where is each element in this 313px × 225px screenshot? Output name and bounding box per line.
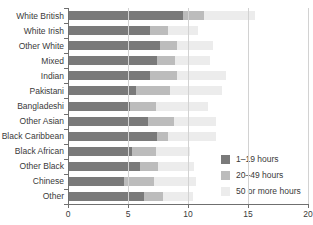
bar-segment-2 — [170, 86, 222, 95]
category-label-7: Other Asian — [20, 116, 64, 126]
x-tick-20 — [308, 204, 309, 208]
bar-segment-1 — [144, 192, 163, 201]
category-label-4: Indian — [41, 71, 64, 81]
bar-segment-0 — [68, 71, 150, 80]
bar-segment-0 — [68, 86, 136, 95]
bar-row — [68, 26, 198, 35]
y-tick-2 — [64, 38, 68, 39]
legend-swatch-icon — [221, 171, 230, 180]
y-tick-8 — [64, 129, 68, 130]
bar-segment-2 — [168, 26, 198, 35]
legend-label: 1–19 hours — [236, 154, 279, 164]
bar-segment-2 — [154, 177, 196, 186]
bar-segment-0 — [68, 11, 183, 20]
bar-segment-1 — [160, 41, 177, 50]
bar-segment-1 — [183, 11, 203, 20]
bar-segment-2 — [177, 71, 226, 80]
bar-row — [68, 86, 222, 95]
bar-segment-0 — [68, 56, 157, 65]
category-label-10: Other Black — [20, 161, 64, 171]
y-tick-7 — [64, 114, 68, 115]
bar-segment-1 — [130, 102, 155, 111]
category-label-11: Chinese — [33, 176, 64, 186]
bar-segment-1 — [150, 26, 168, 35]
y-tick-10 — [64, 159, 68, 160]
stacked-bar-chart: White BritishWhite IrishOther WhiteMixed… — [0, 0, 313, 225]
gridline-10 — [188, 8, 189, 204]
x-tick-label-10: 10 — [183, 209, 192, 219]
legend-item-2: 50 or more hours — [221, 184, 301, 198]
x-tick-label-0: 0 — [66, 209, 71, 219]
category-label-5: Pakistani — [30, 86, 65, 96]
y-tick-9 — [64, 144, 68, 145]
bar-segment-1 — [140, 162, 158, 171]
bar-row — [68, 192, 193, 201]
category-label-3: Mixed — [41, 56, 64, 66]
bar-row — [68, 162, 194, 171]
x-tick-label-15: 15 — [243, 209, 252, 219]
y-tick-1 — [64, 23, 68, 24]
bar-segment-1 — [136, 86, 170, 95]
bar-segment-0 — [68, 26, 150, 35]
bar-segment-2 — [175, 56, 210, 65]
bar-segment-0 — [68, 147, 132, 156]
x-tick-15 — [248, 204, 249, 208]
bar-row — [68, 117, 216, 126]
bar-segment-1 — [157, 56, 175, 65]
category-label-8: Black Caribbean — [2, 131, 64, 141]
y-tick-11 — [64, 174, 68, 175]
legend-label: 20–49 hours — [236, 170, 283, 180]
bar-segment-0 — [68, 162, 140, 171]
bar-segment-2 — [168, 132, 216, 141]
category-label-2: Other White — [19, 41, 64, 51]
bar-segment-2 — [156, 147, 191, 156]
category-label-1: White Irish — [24, 26, 64, 36]
bar-segment-0 — [68, 102, 130, 111]
y-axis-line — [68, 8, 69, 204]
y-tick-3 — [64, 53, 68, 54]
x-tick-label-20: 20 — [303, 209, 312, 219]
y-tick-4 — [64, 68, 68, 69]
y-tick-6 — [64, 98, 68, 99]
bar-segment-1 — [148, 117, 173, 126]
bar-row — [68, 132, 216, 141]
bar-row — [68, 11, 255, 20]
bar-segment-0 — [68, 192, 144, 201]
bar-segment-1 — [150, 71, 178, 80]
bar-row — [68, 41, 213, 50]
bar-segment-2 — [156, 102, 209, 111]
bar-segment-2 — [174, 117, 216, 126]
category-label-6: Bangladeshi — [17, 101, 64, 111]
x-tick-10 — [188, 204, 189, 208]
bar-segment-0 — [68, 132, 157, 141]
legend-swatch-icon — [221, 155, 230, 164]
category-label-12: Other — [43, 191, 64, 201]
bar-row — [68, 177, 196, 186]
category-label-0: White British — [16, 11, 64, 21]
chart-legend: 1–19 hours20–49 hours50 or more hours — [221, 152, 301, 200]
bar-segment-1 — [157, 132, 168, 141]
bar-segment-0 — [68, 41, 160, 50]
bar-segment-0 — [68, 177, 124, 186]
x-tick-5 — [128, 204, 129, 208]
category-label-9: Black African — [15, 146, 64, 156]
x-tick-0 — [68, 204, 69, 208]
x-tick-label-5: 5 — [126, 209, 131, 219]
bar-row — [68, 71, 226, 80]
bar-segment-2 — [177, 41, 213, 50]
legend-swatch-icon — [221, 187, 230, 196]
legend-item-1: 20–49 hours — [221, 168, 301, 182]
legend-item-0: 1–19 hours — [221, 152, 301, 166]
legend-label: 50 or more hours — [236, 186, 301, 196]
y-tick-0 — [64, 8, 68, 9]
y-tick-12 — [64, 189, 68, 190]
gridline-15 — [248, 8, 249, 204]
y-tick-5 — [64, 83, 68, 84]
gridline-20 — [308, 8, 309, 204]
bar-segment-0 — [68, 117, 148, 126]
y-tick-end — [64, 204, 68, 205]
gridline-5 — [128, 8, 129, 204]
bar-segment-1 — [132, 147, 156, 156]
bar-row — [68, 147, 190, 156]
